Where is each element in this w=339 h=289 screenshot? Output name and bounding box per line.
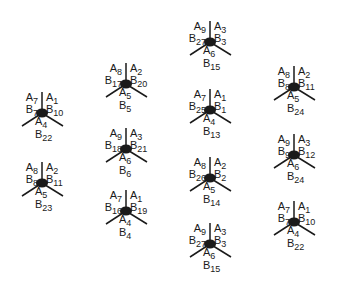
label-index: 2 [221,173,226,183]
label-top-right-a: A2 [214,157,226,168]
label-top-right-b: B20 [130,75,147,86]
label-top-left-b: B7 [278,213,290,224]
label-letter: A [278,65,285,77]
label-top-right-a: A1 [46,92,58,103]
label-letter: B [189,32,196,44]
label-bottom-a: A6 [119,152,131,163]
label-top-left-a: A8 [110,63,122,74]
label-top-left-b: B9 [278,146,290,157]
label-top-left-b: B26 [189,169,206,180]
label-index: 13 [210,130,220,140]
label-letter: A [194,20,201,32]
label-bottom-a: A5 [35,186,47,197]
label-bottom-b: B22 [35,129,52,140]
label-top-left-b: B18 [105,140,122,151]
label-letter: A [26,91,33,103]
label-index: 22 [42,133,52,143]
label-top-left-b: B17 [105,75,122,86]
label-letter: B [278,145,285,157]
label-top-right-a: A2 [298,66,310,77]
label-letter: B [189,168,196,180]
label-index: 15 [210,264,220,274]
label-index: 10 [53,108,63,118]
label-letter: B [189,100,196,112]
label-top-left-a: A7 [194,89,206,100]
label-top-left-a: A8 [26,162,38,173]
label-top-left-b: B7 [26,104,38,115]
label-index: 11 [305,82,314,92]
label-top-right-a: A3 [130,128,142,139]
label-top-right-a: A1 [214,89,226,100]
label-index: 1 [221,105,226,115]
label-letter: A [194,156,201,168]
label-letter: A [110,62,117,74]
junction-diagram: A7B7A1B10A4B22A8B8A2B11A5B23A8B17A2B20A5… [0,0,339,289]
label-top-right-b: B3 [214,33,226,44]
label-top-left-a: A9 [194,223,206,234]
label-bottom-b: B5 [119,100,131,111]
label-top-left-a: A9 [110,128,122,139]
label-bottom-b: B15 [203,260,220,271]
label-top-left-a: A8 [194,157,206,168]
label-index: 4 [126,231,131,241]
label-bottom-b: B24 [287,103,304,114]
label-letter: B [105,74,112,86]
label-bottom-a: A5 [119,87,131,98]
label-index: 24 [294,175,304,185]
label-top-right-b: B11 [298,78,315,89]
label-top-left-b: B27 [189,33,206,44]
label-index: 10 [305,217,315,227]
label-top-right-b: B3 [214,235,226,246]
label-top-left-a: A7 [110,190,122,201]
label-bottom-b: B4 [119,227,131,238]
label-top-right-b: B11 [46,174,63,185]
label-top-right-a: A2 [130,63,142,74]
label-top-right-b: B10 [46,104,63,115]
label-index: 23 [42,203,52,213]
label-index: 12 [305,150,315,160]
label-bottom-b: B23 [35,199,52,210]
label-bottom-a: A6 [287,158,299,169]
label-bottom-a: A4 [203,113,215,124]
label-index: 6 [126,169,131,179]
label-top-left-b: B16 [105,202,122,213]
label-index: 11 [53,178,62,188]
label-top-left-b: B25 [189,101,206,112]
label-top-left-a: A7 [26,92,38,103]
label-index: 19 [137,206,147,216]
label-letter: A [278,200,285,212]
label-bottom-b: B22 [287,238,304,249]
label-bottom-a: A4 [35,116,47,127]
label-top-left-a: A9 [194,21,206,32]
label-letter: B [189,234,196,246]
label-index: 24 [294,107,304,117]
label-index: 22 [294,242,304,252]
label-top-right-a: A1 [130,190,142,201]
label-top-left-a: A8 [278,66,290,77]
label-top-left-b: B8 [278,78,290,89]
label-index: 21 [137,144,147,154]
label-index: 20 [137,79,147,89]
label-bottom-b: B13 [203,126,220,137]
label-top-left-b: B8 [26,174,38,185]
label-top-right-a: A1 [298,201,310,212]
label-index: 3 [221,239,226,249]
label-letter: A [110,127,117,139]
label-top-right-a: A3 [214,21,226,32]
label-top-right-b: B12 [298,146,315,157]
label-letter: A [26,161,33,173]
label-top-right-a: A2 [46,162,58,173]
label-index: 5 [126,104,131,114]
label-top-right-b: B2 [214,169,226,180]
label-bottom-a: A5 [203,181,215,192]
label-bottom-a: A4 [287,225,299,236]
label-top-right-b: B21 [130,140,147,151]
label-letter: A [110,189,117,201]
label-letter: A [278,133,285,145]
label-index: 14 [210,198,220,208]
label-top-left-a: A9 [278,134,290,145]
label-top-right-b: B19 [130,202,147,213]
label-bottom-a: A6 [203,45,215,56]
label-top-right-a: A3 [214,223,226,234]
label-letter: B [26,173,33,185]
